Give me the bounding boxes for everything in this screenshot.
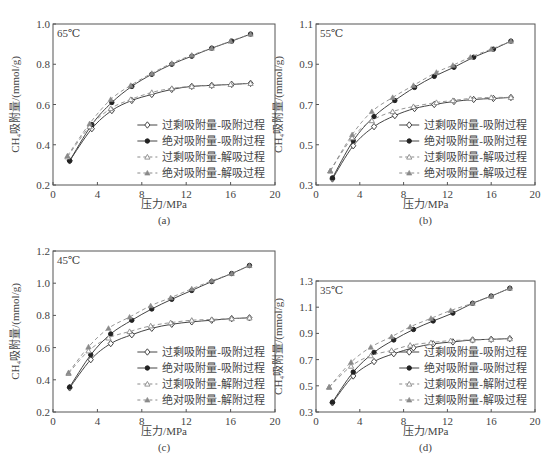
filled-triangle-marker bbox=[106, 326, 111, 331]
filled-triangle-marker bbox=[368, 345, 373, 350]
legend-label: 绝对吸附量-吸附过程 bbox=[424, 134, 527, 147]
y-tick-label: 0.9 bbox=[299, 327, 313, 339]
filled-circle-marker bbox=[67, 385, 71, 389]
y-axis-label: CH₄吸附量/(mmol/g) bbox=[8, 283, 22, 380]
filled-triangle-marker bbox=[434, 70, 439, 75]
chart-panel-d: 0481216200.30.50.70.91.11.335℃压力/MPa(d)C… bbox=[271, 275, 541, 454]
y-tick-label: 1.1 bbox=[299, 18, 313, 30]
filled-circle-marker bbox=[407, 139, 411, 143]
temperature-label: 55℃ bbox=[320, 27, 343, 39]
x-tick-label: 16 bbox=[225, 188, 237, 200]
filled-triangle-marker bbox=[148, 303, 153, 308]
y-tick-label: 0.4 bbox=[36, 139, 50, 151]
open-diamond-marker bbox=[407, 122, 412, 128]
filled-triangle-marker bbox=[127, 314, 132, 319]
open-diamond-marker bbox=[371, 123, 376, 129]
legend-label: 过剩吸附量-吸附过程 bbox=[424, 118, 527, 131]
x-tick-label: 4 bbox=[95, 188, 101, 200]
x-axis-label: 压力/MPa bbox=[141, 425, 187, 437]
filled-circle-marker bbox=[145, 139, 149, 143]
legend-label: 绝对吸附量-解附过程 bbox=[162, 393, 265, 406]
legend-label: 过剩吸附量-解吸过程 bbox=[162, 150, 265, 163]
x-axis-label: 压力/MPa bbox=[403, 198, 449, 210]
chart-panel-b: 0481216200.30.50.70.91.155℃压力/MPa(b)CH₄吸… bbox=[271, 18, 541, 227]
y-tick-label: 0.5 bbox=[299, 380, 313, 392]
y-tick-label: 1.0 bbox=[36, 18, 50, 30]
y-tick-label: 0.8 bbox=[36, 58, 50, 70]
legend-label: 绝对吸附量-吸附过程 bbox=[162, 134, 265, 147]
legend-label: 过剩吸附量-吸附过程 bbox=[162, 118, 265, 131]
open-diamond-marker bbox=[145, 349, 150, 355]
x-tick-label: 16 bbox=[486, 415, 498, 427]
x-tick-label: 20 bbox=[270, 188, 282, 200]
y-tick-label: 0.7 bbox=[299, 354, 313, 366]
x-axis-label: 压力/MPa bbox=[141, 198, 187, 210]
legend-label: 绝对吸附量-解吸过程 bbox=[162, 166, 265, 179]
panel-caption: (a) bbox=[158, 214, 171, 227]
temperature-label: 35℃ bbox=[320, 284, 343, 296]
legend-label: 绝对吸附量-吸附过程 bbox=[162, 361, 265, 374]
x-tick-label: 4 bbox=[357, 188, 363, 200]
y-tick-label: 0.6 bbox=[36, 342, 50, 354]
open-triangle-marker bbox=[390, 109, 395, 114]
x-tick-label: 0 bbox=[313, 415, 319, 427]
y-tick-label: 0.2 bbox=[36, 406, 50, 418]
filled-circle-marker bbox=[330, 400, 334, 404]
y-tick-label: 0.2 bbox=[36, 179, 50, 191]
legend: 过剩吸附量-吸附过程绝对吸附量-吸附过程过剩吸附量-解吸过程绝对吸附量-解吸过程 bbox=[137, 118, 265, 179]
filled-triangle-marker bbox=[390, 95, 395, 100]
legend-label: 过剩吸附量-解吸过程 bbox=[424, 393, 527, 406]
filled-circle-marker bbox=[330, 176, 334, 180]
y-tick-label: 0.8 bbox=[36, 309, 50, 321]
legend-label: 绝对吸附量-吸附过程 bbox=[424, 361, 527, 374]
legend-label: 过剩吸附量-解附过程 bbox=[162, 377, 265, 390]
y-tick-label: 1.3 bbox=[299, 275, 313, 287]
filled-circle-marker bbox=[351, 370, 355, 374]
panel-caption: (c) bbox=[158, 441, 171, 454]
y-tick-label: 0.3 bbox=[299, 406, 313, 418]
y-tick-label: 0.7 bbox=[299, 99, 313, 111]
y-tick-label: 0.9 bbox=[299, 58, 313, 70]
filled-triangle-marker bbox=[328, 168, 333, 173]
legend: 过剩吸附量-吸附过程绝对吸附量-吸附过程过剩吸附量-解附过程过剩吸附量-解吸过程 bbox=[399, 345, 527, 406]
open-diamond-marker bbox=[371, 358, 376, 364]
filled-circle-marker bbox=[145, 366, 149, 370]
y-axis-label: CH₄吸附量/(mmol/g) bbox=[271, 298, 285, 395]
filled-circle-marker bbox=[407, 366, 411, 370]
x-axis-label: 压力/MPa bbox=[403, 425, 449, 437]
x-tick-label: 4 bbox=[95, 415, 101, 427]
y-tick-label: 0.6 bbox=[36, 99, 50, 111]
y-tick-label: 0.5 bbox=[299, 139, 313, 151]
x-tick-label: 0 bbox=[50, 415, 56, 427]
panel-caption: (b) bbox=[419, 214, 432, 227]
open-triangle-marker bbox=[408, 343, 413, 348]
open-diamond-marker bbox=[145, 122, 150, 128]
filled-triangle-marker bbox=[389, 334, 394, 339]
legend-label: 过剩吸附量-吸附过程 bbox=[162, 345, 265, 358]
y-tick-label: 1.1 bbox=[299, 301, 313, 313]
chart-panel-a: 0481216200.20.40.60.81.065℃压力/MPa(a)CH₄吸… bbox=[8, 18, 281, 227]
y-tick-label: 1.2 bbox=[36, 245, 50, 257]
chart-panel-c: 0481216200.20.40.60.81.01.245℃压力/MPa(c)C… bbox=[8, 245, 281, 454]
filled-circle-marker bbox=[109, 332, 113, 336]
temperature-label: 65℃ bbox=[57, 27, 80, 39]
legend-label: 绝对吸附量-解吸过程 bbox=[424, 166, 527, 179]
x-tick-label: 20 bbox=[530, 415, 542, 427]
y-tick-label: 0.4 bbox=[36, 374, 50, 386]
y-axis-label: CH₄吸附量/(mmol/g) bbox=[271, 56, 285, 153]
y-axis-label: CH₄吸附量/(mmol/g) bbox=[8, 56, 22, 153]
y-tick-label: 0.3 bbox=[299, 179, 313, 191]
legend-label: 过剩吸附量-解吸过程 bbox=[424, 150, 527, 163]
y-tick-label: 1.0 bbox=[36, 277, 50, 289]
open-diamond-marker bbox=[108, 340, 113, 346]
filled-triangle-marker bbox=[408, 324, 413, 329]
x-tick-label: 16 bbox=[486, 188, 498, 200]
x-tick-label: 0 bbox=[50, 188, 56, 200]
panel-caption: (d) bbox=[419, 441, 432, 454]
adsorption-figure: 0481216200.20.40.60.81.065℃压力/MPa(a)CH₄吸… bbox=[0, 0, 558, 473]
x-tick-label: 0 bbox=[313, 188, 319, 200]
open-triangle-marker bbox=[149, 90, 154, 95]
legend: 过剩吸附量-吸附过程绝对吸附量-吸附过程过剩吸附量-解吸过程绝对吸附量-解吸过程 bbox=[399, 118, 527, 179]
x-tick-label: 4 bbox=[357, 415, 363, 427]
x-tick-label: 20 bbox=[530, 188, 542, 200]
